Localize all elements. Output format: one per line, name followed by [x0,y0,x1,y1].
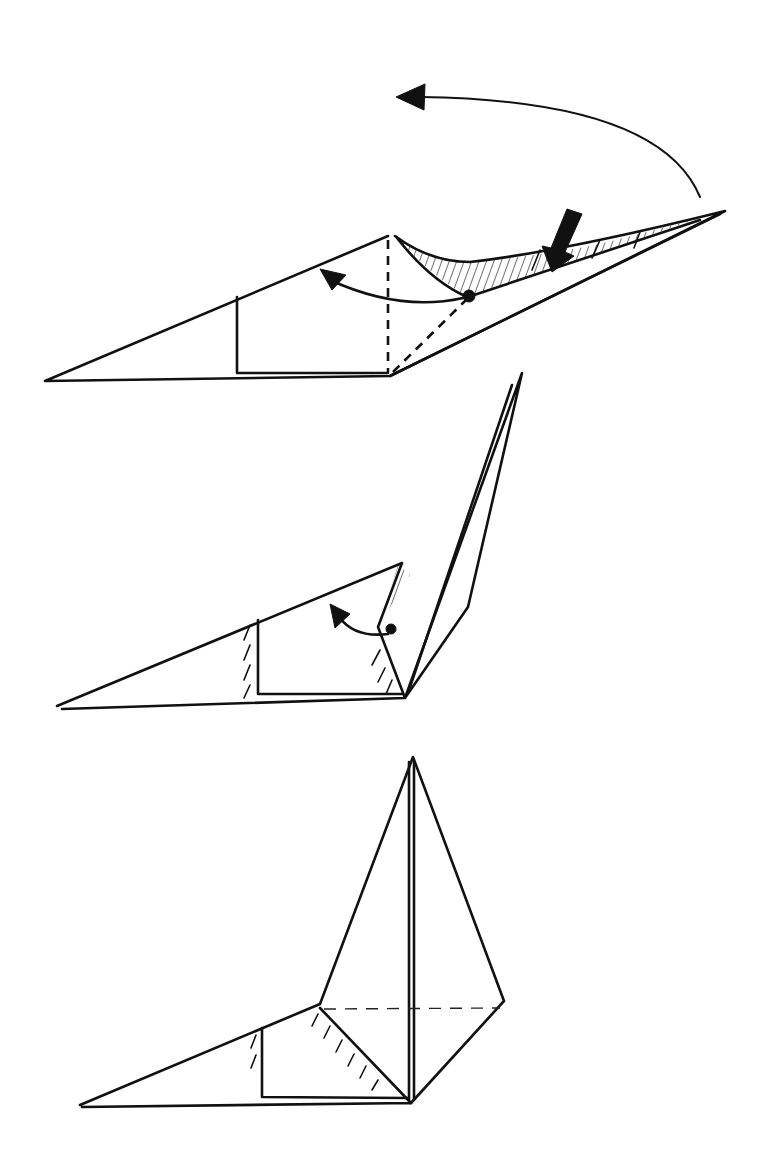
pivot-dot-icon [386,624,396,634]
inner-edge [410,385,512,687]
center-crease [409,762,414,1100]
step-3 [80,757,504,1107]
arrowhead-icon [320,269,346,290]
shading-marks [244,625,392,698]
shaded-region [380,565,410,624]
swing-over-arrow [420,97,700,197]
step-2 [57,373,522,709]
push-arrow-icon [542,209,582,272]
valley-fold-line [393,300,466,372]
hidden-line [324,1008,500,1009]
paper-outline [57,373,522,709]
origami-diagram [0,0,757,1165]
arrowhead-icon [396,84,425,110]
rectangle-flap [237,297,388,373]
paper-outline [45,211,725,381]
step-1 [45,84,725,381]
rectangle-flap [262,1028,408,1098]
inner-edge [320,1008,411,1103]
paper-outline [80,757,504,1107]
pivot-dot-icon [463,290,475,302]
